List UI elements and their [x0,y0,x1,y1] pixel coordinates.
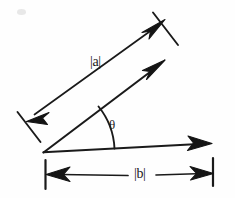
diagram-canvas: |a| |b| θ [0,0,235,198]
dimension-line-b [46,158,214,189]
vector-a-magnitude-label: |a| [90,55,101,69]
vector-b-arrowhead-icon [188,136,213,151]
dimension-a-shaft [35,26,159,115]
dimension-a-arrowhead-start-icon [27,113,50,125]
dimension-line-a [18,13,179,143]
vector-b-shaft [44,144,200,152]
vector-a-group [44,60,166,153]
vector-a-arrowhead-icon [143,60,166,80]
angle-theta-label: θ [109,118,115,131]
dimension-a-tick-start [18,112,41,142]
dimension-b-shaft-left [61,175,128,176]
vector-diagram-svg [0,0,235,198]
vector-a-shaft [44,68,157,153]
vector-b-magnitude-label: |b| [134,167,145,181]
vector-b-group [44,136,213,152]
